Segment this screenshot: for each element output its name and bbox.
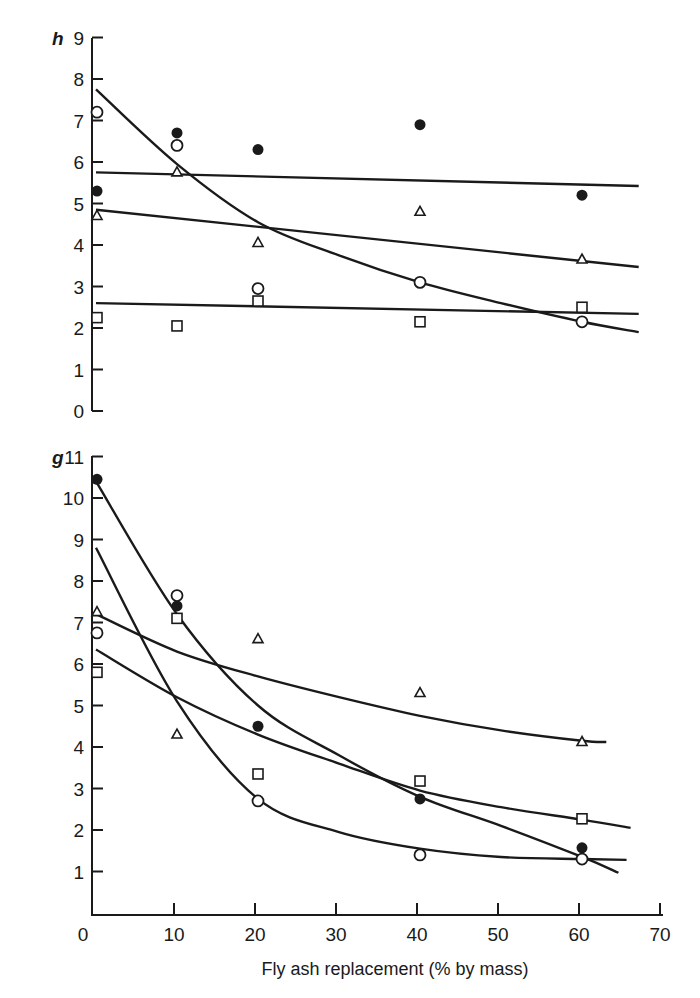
data-points-g bbox=[92, 474, 588, 865]
y-tick-label-g: 10 bbox=[63, 488, 84, 509]
x-tick-label: 30 bbox=[325, 924, 346, 945]
y-tick-label-h: 4 bbox=[73, 235, 84, 256]
open-square-marker bbox=[253, 769, 263, 779]
y-tick-label-h: 0 bbox=[73, 401, 84, 422]
y-ticks-h: 0123456789 bbox=[73, 28, 103, 423]
x-tick-label: 10 bbox=[163, 924, 184, 945]
open-circle-marker bbox=[172, 590, 183, 601]
y-tick-label-g: 1 bbox=[73, 862, 84, 883]
fit-lines-h bbox=[96, 89, 639, 332]
data-points-h bbox=[92, 107, 588, 331]
open-square-marker bbox=[577, 302, 587, 312]
fly-ash-chart: h 0123456789 g 1234567891011 01020304050… bbox=[0, 0, 700, 998]
panel-label-g: g bbox=[51, 447, 64, 468]
open-triangle-marker bbox=[92, 607, 102, 616]
open-square-marker bbox=[253, 296, 263, 306]
y-tick-label-h: 8 bbox=[73, 69, 84, 90]
open-circle-marker bbox=[253, 283, 264, 294]
open-triangle-marker bbox=[253, 634, 263, 643]
filled-circle-marker bbox=[172, 127, 183, 138]
open-square-marker bbox=[415, 776, 425, 786]
y-tick-label-g: 11 bbox=[64, 447, 84, 468]
filled-circle-marker bbox=[92, 186, 103, 197]
open-circle-marker bbox=[92, 107, 103, 118]
filled-circle-marker bbox=[577, 190, 588, 201]
open-circle-marker bbox=[415, 849, 426, 860]
x-tick-label: 50 bbox=[487, 924, 508, 945]
open-square-marker bbox=[415, 317, 425, 327]
open-square-marker bbox=[172, 321, 182, 331]
fit-curve-open-triangle bbox=[96, 614, 606, 742]
open-triangle-marker bbox=[92, 210, 102, 219]
y-tick-label-g: 2 bbox=[73, 820, 84, 841]
panel-label-h: h bbox=[52, 28, 64, 49]
x-tick-label: 20 bbox=[244, 924, 265, 945]
y-tick-label-h: 2 bbox=[73, 318, 84, 339]
open-triangle-marker bbox=[415, 688, 425, 697]
y-tick-label-g: 4 bbox=[73, 737, 84, 758]
y-tick-label-h: 9 bbox=[73, 28, 84, 49]
fit-lines-g bbox=[96, 481, 631, 872]
y-ticks-g: 1234567891011 bbox=[63, 447, 103, 883]
open-circle-marker bbox=[577, 316, 588, 327]
open-square-marker bbox=[172, 613, 182, 623]
open-square-marker bbox=[92, 667, 102, 677]
filled-circle-marker bbox=[415, 119, 426, 130]
open-triangle-marker bbox=[172, 729, 182, 738]
open-triangle-marker bbox=[577, 254, 587, 263]
x-tick-label: 40 bbox=[406, 924, 427, 945]
filled-circle-marker bbox=[253, 721, 264, 732]
x-tick-label: 0 bbox=[78, 924, 89, 945]
x-axis-title: Fly ash replacement (% by mass) bbox=[261, 959, 528, 979]
open-circle-marker bbox=[577, 854, 588, 865]
filled-circle-marker bbox=[92, 474, 103, 485]
y-tick-label-h: 1 bbox=[73, 360, 84, 381]
open-square-marker bbox=[577, 814, 587, 824]
x-axis: 010203040506070 bbox=[78, 903, 671, 945]
y-axis-h: 0123456789 bbox=[73, 28, 103, 423]
y-tick-label-h: 3 bbox=[73, 277, 84, 298]
open-circle-marker bbox=[415, 277, 426, 288]
open-triangle-marker bbox=[415, 206, 425, 215]
y-tick-label-g: 6 bbox=[73, 654, 84, 675]
x-tick-label: 60 bbox=[568, 924, 589, 945]
fit-curve-open-triangle bbox=[96, 210, 639, 267]
y-tick-label-g: 5 bbox=[73, 696, 84, 717]
fit-curve-open-square bbox=[96, 303, 639, 314]
open-triangle-marker bbox=[253, 237, 263, 246]
filled-circle-marker bbox=[415, 793, 426, 804]
open-square-marker bbox=[92, 313, 102, 323]
fit-curve-open-circle bbox=[96, 89, 639, 332]
x-ticks: 010203040506070 bbox=[78, 903, 671, 945]
filled-circle-marker bbox=[172, 600, 183, 611]
open-circle-marker bbox=[172, 140, 183, 151]
y-axis-g: 1234567891011 bbox=[63, 447, 103, 916]
y-tick-label-h: 7 bbox=[73, 111, 84, 132]
open-circle-marker bbox=[92, 627, 103, 638]
y-tick-label-g: 9 bbox=[73, 530, 84, 551]
y-tick-label-g: 7 bbox=[73, 613, 84, 634]
panel-g: g 1234567891011 010203040506070 bbox=[51, 447, 671, 946]
panel-h: h 0123456789 bbox=[52, 28, 639, 423]
filled-circle-marker bbox=[577, 842, 588, 853]
y-tick-label-h: 6 bbox=[73, 152, 84, 173]
y-tick-label-g: 3 bbox=[73, 779, 84, 800]
open-circle-marker bbox=[253, 795, 264, 806]
filled-circle-marker bbox=[253, 144, 264, 155]
y-tick-label-h: 5 bbox=[73, 194, 84, 215]
x-tick-label: 70 bbox=[649, 924, 670, 945]
y-tick-label-g: 8 bbox=[73, 571, 84, 592]
